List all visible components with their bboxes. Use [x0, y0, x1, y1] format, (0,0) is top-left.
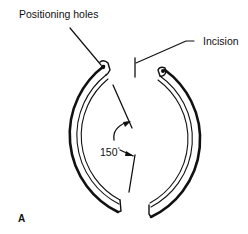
angle-label: 150° — [100, 143, 120, 158]
angle-value: 150 — [100, 146, 118, 158]
positioning-holes-label: Positioning holes — [19, 8, 98, 20]
panel-label: A — [18, 213, 25, 225]
angle-arrow-lower-icon — [125, 151, 134, 156]
positioning-hole-left — [101, 65, 105, 69]
angle-line-lower — [129, 155, 135, 192]
right-ring-segment — [149, 67, 200, 217]
positioning-hole-right — [161, 69, 165, 73]
angle-unit: ° — [118, 146, 120, 152]
incision-label: Incision — [203, 35, 239, 47]
incision-leader — [136, 41, 194, 63]
positioning-holes-leader — [70, 28, 101, 65]
